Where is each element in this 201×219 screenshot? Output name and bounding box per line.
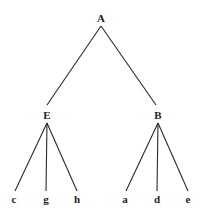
edge-a-to-e	[47, 26, 101, 105]
edge-e-to-c	[15, 123, 47, 191]
leaf-c: c	[12, 193, 17, 205]
edge-b-to-a	[126, 123, 158, 191]
leaf-e: e	[186, 193, 191, 205]
edges-b	[126, 123, 188, 191]
edges-e	[15, 123, 77, 191]
edge-b-to-e	[158, 123, 188, 191]
edge-b-to-d	[157, 123, 158, 191]
edge-e-to-g	[46, 123, 47, 191]
node-a-root: A	[97, 12, 105, 24]
edges-root	[47, 26, 156, 105]
leaf-g: g	[43, 193, 49, 205]
leaf-d: d	[154, 193, 160, 205]
node-b: B	[154, 109, 162, 121]
leaf-a: a	[122, 193, 128, 205]
tree-diagram: A E B c g h a d e	[0, 0, 201, 219]
edge-a-to-b	[101, 26, 156, 105]
edge-e-to-h	[47, 123, 77, 191]
leaf-h: h	[74, 193, 80, 205]
node-e: E	[43, 109, 50, 121]
